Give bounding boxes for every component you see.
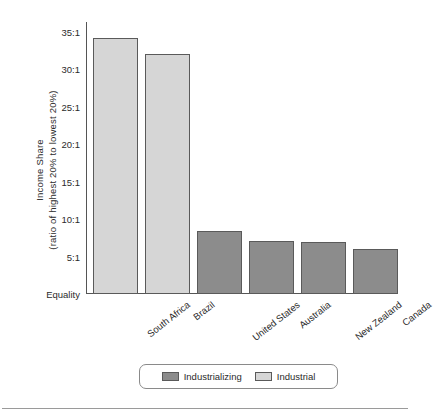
y-tick-label: 15:1 bbox=[62, 176, 81, 187]
x-tick-label-canada: Canada bbox=[400, 299, 433, 328]
y-tick-label: Equality bbox=[46, 289, 80, 300]
y-tick-label: 5:1 bbox=[67, 251, 80, 262]
x-axis-tick-labels: South AfricaBrazilUnited StatesAustralia… bbox=[86, 299, 397, 359]
bar-united-states bbox=[197, 231, 242, 294]
y-tick-label: 35:1 bbox=[62, 26, 81, 37]
x-tick-label-australia: Australia bbox=[297, 299, 333, 330]
y-axis-title-line1: Income Share bbox=[34, 139, 47, 201]
bar-brazil bbox=[145, 54, 190, 294]
bar-australia bbox=[249, 241, 294, 294]
y-tick-label: 30:1 bbox=[62, 64, 81, 75]
x-tick-label-south-africa: South Africa bbox=[145, 299, 192, 339]
y-tick-label: 20:1 bbox=[62, 139, 81, 150]
y-axis-line bbox=[86, 22, 87, 294]
x-tick-label-new-zealand: New Zealand bbox=[353, 299, 404, 342]
bottom-divider bbox=[2, 408, 408, 409]
bar-south-africa bbox=[93, 38, 138, 294]
legend-item-industrial: Industrial bbox=[255, 371, 316, 382]
legend-label-industrial: Industrial bbox=[277, 371, 316, 382]
chart-legend: Industrializing Industrial bbox=[139, 364, 338, 389]
y-tick-label: 10:1 bbox=[62, 214, 81, 225]
bar-new-zealand bbox=[301, 242, 346, 294]
y-tick-label: 25:1 bbox=[62, 101, 81, 112]
x-tick-label-brazil: Brazil bbox=[191, 299, 216, 322]
y-axis-title-line2: (ratio of highest 20% to lowest 20%) bbox=[47, 90, 60, 249]
bar-canada bbox=[353, 249, 398, 294]
legend-label-industrializing: Industrializing bbox=[184, 371, 242, 382]
legend-swatch-industrial bbox=[255, 372, 272, 381]
y-axis-title: Income Share (ratio of highest 20% to lo… bbox=[29, 45, 65, 295]
legend-swatch-industrializing bbox=[162, 372, 179, 381]
plot-area: Equality5:110:115:120:125:130:135:1 bbox=[86, 22, 397, 294]
x-tick-label-united-states: United States bbox=[250, 299, 302, 343]
legend-item-industrializing: Industrializing bbox=[162, 371, 242, 382]
